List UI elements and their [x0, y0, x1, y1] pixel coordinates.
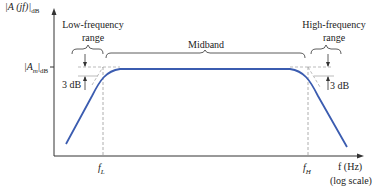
- fl-label: fL: [98, 163, 105, 176]
- high-3db-label: 3 dB: [330, 81, 349, 91]
- arrow-down-icon: [326, 62, 330, 67]
- high-range-brace: [311, 45, 341, 54]
- fh-label: fH: [303, 163, 311, 176]
- midband-label: Midband: [188, 40, 224, 50]
- x-axis-scale-note: (log scale): [330, 176, 372, 186]
- x-axis-arrow-icon: [357, 154, 364, 159]
- x-axis-label: f (Hz): [338, 162, 362, 172]
- response-curve: [66, 69, 347, 147]
- arrow-up-icon: [83, 76, 87, 81]
- arrow-down-icon: [83, 62, 87, 67]
- low-3db-label: 3 dB: [62, 80, 81, 90]
- y-axis-label: |A (jf)|dB: [5, 2, 39, 15]
- high-slope-asymptote: [308, 67, 320, 87]
- midband-brace: [106, 50, 305, 58]
- low-frequency-label: Low-frequencyrange: [58, 20, 128, 43]
- high-frequency-label: High-frequencyrange: [296, 20, 372, 43]
- y-axis-arrow-icon: [52, 8, 57, 15]
- low-range-brace: [72, 45, 103, 54]
- midband-gain-label: |Am|dB: [24, 62, 48, 75]
